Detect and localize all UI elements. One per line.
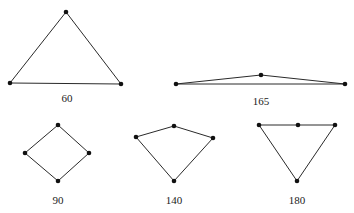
figure-180: 180 (257, 123, 338, 206)
graph-edge (261, 75, 345, 84)
figure-90: 90 (23, 123, 92, 206)
graph-node (134, 135, 139, 140)
graph-edge (10, 83, 121, 84)
graph-edge (66, 12, 121, 84)
graph-node (343, 82, 348, 87)
diagram-canvas: 60 165 90 140 180 (0, 0, 354, 213)
graph-edge (136, 137, 174, 181)
figure-label: 90 (53, 194, 65, 206)
figure-60: 60 (8, 10, 124, 104)
graph-node (257, 123, 262, 128)
graph-edge (176, 75, 261, 84)
graph-edge (136, 126, 174, 137)
figure-label: 60 (62, 92, 74, 104)
figure-140: 140 (134, 124, 216, 206)
graph-node (56, 179, 61, 184)
graph-node (23, 151, 28, 156)
graph-edge (297, 125, 335, 181)
graph-edge (259, 125, 297, 181)
figure-label: 140 (166, 194, 183, 206)
graph-edge (58, 153, 89, 181)
graph-edge (174, 138, 213, 181)
graph-edge (10, 12, 66, 83)
graph-node (296, 123, 301, 128)
figure-label: 165 (253, 95, 270, 107)
graph-node (295, 179, 300, 184)
figure-label: 180 (289, 194, 306, 206)
figure-165: 165 (174, 73, 348, 107)
graph-node (119, 82, 124, 87)
graph-node (174, 82, 179, 87)
graph-node (87, 151, 92, 156)
graph-edge (25, 125, 58, 153)
graph-node (211, 136, 216, 141)
graph-edge (174, 126, 213, 138)
graph-node (64, 10, 69, 15)
graph-edge (58, 125, 89, 153)
graph-node (172, 124, 177, 129)
graph-node (8, 81, 13, 86)
graph-node (333, 123, 338, 128)
graph-node (172, 179, 177, 184)
graph-node (259, 73, 264, 78)
graph-edge (25, 153, 58, 181)
graph-node (56, 123, 61, 128)
